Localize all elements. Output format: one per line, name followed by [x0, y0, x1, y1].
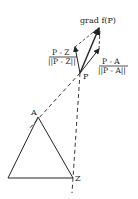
dashed-parallelogram-2: [99, 30, 100, 49]
label-pz-num: P - Z: [52, 48, 70, 57]
arrow-unit-pz: [75, 47, 80, 73]
label-pa-num: P - A: [102, 57, 120, 66]
label-pa-den: ||P - A||: [98, 66, 126, 75]
dashed-line-pa: [28, 73, 80, 130]
label-point-z: Z: [75, 174, 81, 183]
label-point-p: P: [83, 72, 89, 81]
arrow-grad: [80, 28, 99, 73]
label-pz-den: ||P - Z||: [48, 57, 76, 66]
arrow-unit-pa: [80, 49, 99, 73]
label-point-a: A: [30, 108, 37, 117]
dashed-parallelogram-1: [75, 30, 96, 47]
diagram-canvas: grad f(P) P - Z ||P - Z|| P - A ||P - A|…: [0, 0, 138, 199]
triangle: [8, 117, 73, 178]
label-grad: grad f(P): [80, 16, 116, 25]
